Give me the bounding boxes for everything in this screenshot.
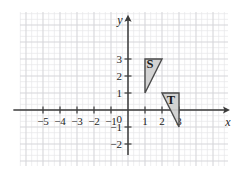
x-tick-label: −3 [71,115,83,127]
y-tick-label: −2 [110,138,122,150]
coordinate-plane-figure: −5−4−3−2−1123321−1−20 xy ST [0,0,241,174]
y-tick-label: 1 [117,87,123,99]
y-tick-label: 2 [117,70,123,82]
grid-major-lines [20,12,228,166]
triangle-t-label: T [167,93,176,107]
x-tick-label: −4 [54,115,66,127]
y-tick-label: 3 [117,53,123,65]
x-tick-label: 2 [159,115,165,127]
axis-tick-labels: −5−4−3−2−1123321−1−20 [37,53,182,150]
y-axis-label: y [116,13,123,27]
grid-minor-lines [20,12,228,166]
origin-label: 0 [117,113,123,125]
x-tick-label: −2 [88,115,100,127]
x-tick-label: 1 [142,115,148,127]
x-axis-label: x [224,115,231,129]
x-tick-label: −5 [37,115,49,127]
triangle-s-label: S [147,57,154,71]
